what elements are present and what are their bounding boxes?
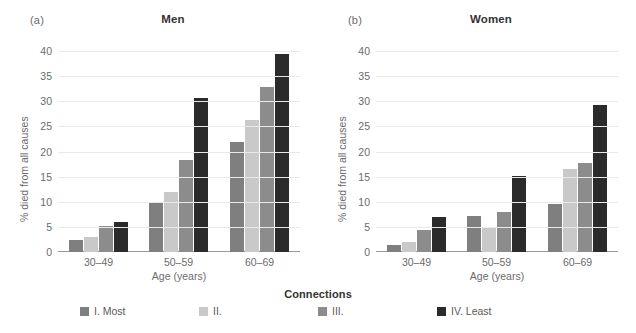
- bar: [467, 216, 481, 252]
- panel-title-men: Men: [0, 13, 318, 25]
- legend-item-label: II.: [213, 305, 222, 317]
- bar: [497, 212, 511, 252]
- bar: [230, 142, 244, 252]
- gridline: [58, 126, 300, 127]
- gridline: [58, 177, 300, 178]
- bar: [84, 237, 98, 252]
- y-axis-tick: 20: [26, 147, 52, 157]
- y-axis-tick: 40: [344, 46, 370, 56]
- gridline: [376, 101, 618, 102]
- gridline: [376, 51, 618, 52]
- bar: [99, 226, 113, 252]
- bar: [432, 217, 446, 252]
- y-axis-tick: 5: [344, 222, 370, 232]
- y-axis-tick: 5: [26, 222, 52, 232]
- figure-container: (a) Men % died from all causes Age (year…: [0, 0, 636, 333]
- y-axis-tick: 25: [26, 121, 52, 131]
- legend-swatch-icon: [437, 307, 446, 316]
- y-axis-tick: 15: [26, 172, 52, 182]
- legend-title: Connections: [0, 288, 636, 300]
- panel-title-women: Women: [318, 13, 636, 25]
- x-axis-tick: 50–59: [149, 256, 209, 268]
- plot-area-women: [376, 51, 618, 252]
- legend-swatch-icon: [80, 307, 89, 316]
- bar: [164, 192, 178, 252]
- legend-item[interactable]: IV. Least: [437, 305, 556, 317]
- bar: [179, 160, 193, 252]
- x-axis-tick: 30–49: [69, 256, 129, 268]
- bar: [387, 245, 401, 252]
- bar: [512, 176, 526, 252]
- y-axis-tick: 20: [344, 147, 370, 157]
- gridline: [58, 76, 300, 77]
- bar: [275, 54, 289, 252]
- gridline: [376, 76, 618, 77]
- legend-swatch-icon: [199, 307, 208, 316]
- y-axis-tick: 0: [26, 247, 52, 257]
- bar: [563, 169, 577, 252]
- legend-item-label: I. Most: [94, 305, 126, 317]
- x-axis-label-women: Age (years): [376, 270, 618, 282]
- y-axis-tick: 15: [344, 172, 370, 182]
- gridline: [376, 227, 618, 228]
- x-axis-tick: 50–59: [467, 256, 527, 268]
- y-axis-tick: 40: [26, 46, 52, 56]
- x-axis-tick: 30–49: [387, 256, 447, 268]
- y-axis-tick: 30: [344, 96, 370, 106]
- y-axis-tick: 0: [344, 247, 370, 257]
- bar: [482, 227, 496, 252]
- gridline: [376, 126, 618, 127]
- legend-item[interactable]: I. Most: [80, 305, 199, 317]
- bar: [245, 120, 259, 252]
- y-axis-tick: 30: [26, 96, 52, 106]
- legend-item-label: III.: [332, 305, 344, 317]
- gridline: [58, 51, 300, 52]
- gridline: [58, 152, 300, 153]
- legend-swatch-icon: [318, 307, 327, 316]
- bar: [548, 204, 562, 252]
- legend-item-label: IV. Least: [451, 305, 491, 317]
- y-axis-tick: 25: [344, 121, 370, 131]
- panel-women: (b) Women % died from all causes Age (ye…: [318, 0, 636, 290]
- panel-title-men-text: Men: [161, 13, 184, 25]
- bar: [402, 242, 416, 252]
- legend: Connections I. MostII.III.IV. Least: [0, 288, 636, 317]
- legend-item[interactable]: II.: [199, 305, 318, 317]
- x-axis-tick: 60–69: [548, 256, 608, 268]
- legend-items: I. MostII.III.IV. Least: [0, 305, 636, 317]
- panel-men: (a) Men % died from all causes Age (year…: [0, 0, 318, 290]
- bar: [194, 98, 208, 252]
- plot-area-men: [58, 51, 300, 252]
- bar: [69, 240, 83, 252]
- y-axis-tick: 10: [344, 197, 370, 207]
- x-axis-tick: 60–69: [230, 256, 290, 268]
- gridline: [58, 227, 300, 228]
- gridline: [58, 202, 300, 203]
- gridline: [376, 152, 618, 153]
- legend-item[interactable]: III.: [318, 305, 437, 317]
- gridline: [58, 101, 300, 102]
- y-axis-tick: 10: [26, 197, 52, 207]
- y-axis-tick: 35: [26, 71, 52, 81]
- panel-title-women-text: Women: [470, 13, 512, 25]
- gridline: [376, 202, 618, 203]
- y-axis-tick: 35: [344, 71, 370, 81]
- bar: [417, 230, 431, 252]
- x-axis-label-men: Age (years): [58, 270, 300, 282]
- gridline: [376, 177, 618, 178]
